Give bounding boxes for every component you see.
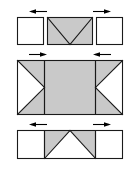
bottom-left-arrow — [29, 122, 47, 127]
top-right-box — [97, 18, 123, 45]
top-right-arrow — [93, 9, 111, 14]
middle-right-arrow — [93, 52, 111, 57]
middle-left-arrow — [29, 52, 47, 57]
diagram-root — [0, 0, 140, 176]
top-left-box — [18, 18, 44, 45]
middle-panel — [18, 52, 123, 114]
panel-deformation-diagram — [0, 0, 140, 176]
bottom-panel — [18, 122, 123, 158]
top-left-arrow — [29, 9, 47, 14]
top-panel — [18, 9, 123, 44]
top-center-box — [48, 18, 93, 45]
bottom-right-arrow — [93, 122, 111, 127]
